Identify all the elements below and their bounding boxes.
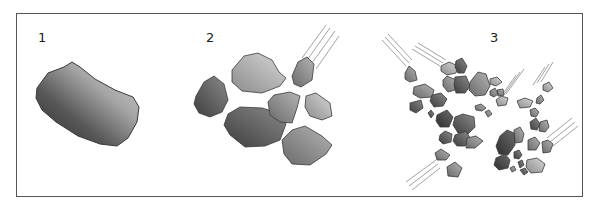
rock-fragment [475, 104, 486, 111]
motion-streak [406, 160, 436, 182]
rock-fragment [455, 58, 467, 73]
rock-fragment [413, 84, 434, 98]
asteroid-body [36, 62, 139, 146]
rock-fragment [447, 162, 462, 177]
motion-streak [418, 43, 446, 60]
rock-fragment [435, 149, 450, 160]
rock-fragment [528, 137, 540, 150]
panel-label-3: 3 [490, 30, 498, 45]
rock-fragment [410, 100, 423, 113]
panel-label-2: 2 [206, 30, 214, 45]
motion-streak [553, 126, 578, 146]
motion-streak [503, 72, 520, 96]
panel-2 [194, 25, 339, 165]
rock-fragment [530, 108, 539, 117]
rock-fragment [510, 166, 516, 172]
rock-fragment [542, 140, 553, 153]
rock-fragment [466, 136, 483, 148]
rock-fragment [514, 127, 524, 143]
motion-streak [541, 62, 553, 82]
motion-streak [382, 40, 406, 66]
rock-fragment [514, 150, 522, 159]
rock-fragment [518, 160, 524, 168]
motion-streak [547, 118, 572, 138]
rock-fragment [496, 96, 508, 106]
panel-1 [36, 62, 139, 146]
motion-streak [412, 168, 440, 190]
rock-fragment [494, 154, 510, 170]
rock-fragment [430, 93, 447, 107]
rock-fragment [496, 130, 515, 155]
rock-fragment [485, 110, 492, 117]
rock-fragment [543, 82, 553, 92]
motion-streak [550, 122, 575, 142]
panel-3 [382, 34, 578, 190]
rock-fragment [539, 120, 549, 132]
rock-fragment [194, 76, 228, 117]
panels-layer [36, 25, 578, 190]
rock-fragment [282, 126, 332, 165]
motion-streak [307, 28, 330, 60]
rock-fragment [490, 77, 502, 86]
motion-streak [506, 69, 524, 94]
rock-fragment [439, 131, 452, 144]
rock-fragment [517, 98, 533, 108]
motion-streak [385, 37, 409, 63]
rock-fragment [232, 53, 286, 93]
motion-streak [415, 46, 443, 63]
rock-fragment [436, 110, 453, 127]
rock-fragment [520, 168, 528, 175]
rock-fragment [490, 88, 498, 97]
rock-fragment [305, 93, 332, 120]
motion-streak [412, 49, 440, 66]
rock-fragment [428, 110, 434, 118]
motion-streak [302, 25, 326, 58]
rock-fragment [497, 89, 504, 96]
rock-fragment [536, 95, 544, 104]
panel-label-1: 1 [38, 30, 46, 45]
rock-fragment [453, 114, 475, 134]
rock-fragment [292, 57, 314, 87]
rock-fragment [530, 118, 540, 130]
rock-fragment [469, 72, 490, 96]
fragmentation-diagram [0, 0, 601, 211]
rock-fragment [454, 76, 470, 93]
motion-streak [533, 67, 545, 85]
motion-streak [388, 34, 412, 60]
motion-streak [409, 164, 438, 186]
rock-fragment [526, 158, 545, 173]
rock-fragment [405, 66, 417, 82]
motion-streak [537, 64, 549, 83]
